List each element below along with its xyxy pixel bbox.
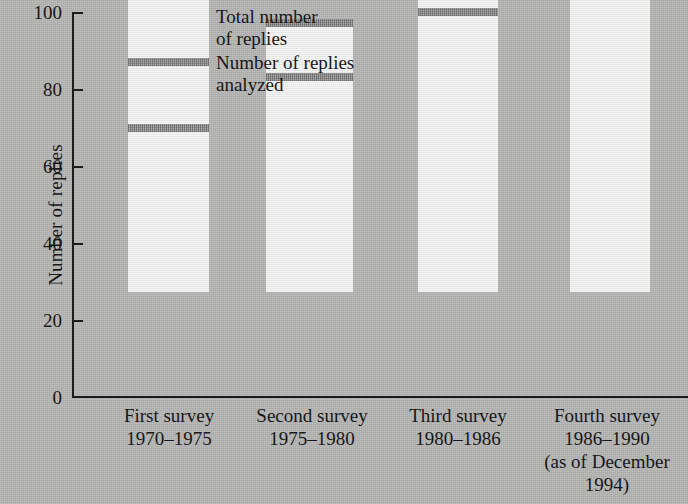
bar-extra-marker-band-first-survey [128,124,209,132]
bar-analyzed-band-first-survey [128,58,209,66]
bar-group-first-survey[interactable] [128,0,209,292]
bar-body-third-survey [418,0,498,292]
x-label-first-survey: First survey 1970–1975 [98,404,240,450]
x-label-second-survey: Second survey 1975–1980 [238,404,386,450]
bar-body-first-survey [128,0,209,292]
bar-group-third-survey[interactable] [418,0,498,292]
x-label-third-survey: Third survey 1980–1986 [388,404,528,450]
bar-body-fourth-survey [570,0,650,292]
legend-label-total: Total number of replies [216,6,318,50]
bar-analyzed-band-third-survey [418,8,498,16]
x-label-fourth-survey: Fourth survey 1986–1990 (as of December … [528,404,686,496]
bar-group-fourth-survey[interactable] [570,0,650,292]
chart-root: Number of replies 100 80 60 40 20 0 [0,0,688,504]
legend-label-analyzed: Number of replies analyzed [216,52,354,96]
